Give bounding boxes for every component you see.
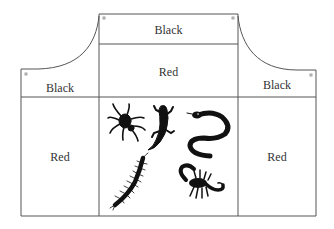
grommet-dot	[103, 17, 105, 19]
spider-icon	[108, 104, 145, 141]
scorpion-icon	[181, 165, 223, 198]
left-bottom-label: Red	[21, 150, 99, 164]
centipede-icon	[110, 153, 148, 210]
grommet-dot	[232, 17, 234, 19]
apron-diagram: Black Red Black Red Black Red	[0, 0, 334, 229]
left-top-label: Black	[21, 81, 99, 95]
right-top-label: Black	[238, 78, 316, 92]
grommet-dot	[25, 73, 27, 75]
bib-top-label: Black	[99, 23, 238, 37]
snake-icon	[187, 112, 228, 157]
bib-middle-label: Red	[99, 65, 238, 79]
grommet-dot	[310, 74, 312, 76]
lizard-icon	[148, 106, 174, 151]
right-bottom-label: Red	[238, 150, 316, 164]
